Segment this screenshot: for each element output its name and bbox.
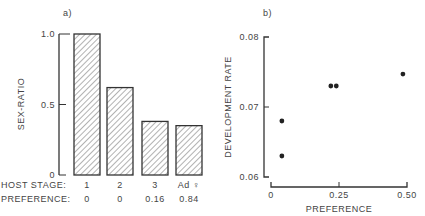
panel-b-scatter-plot: b) 0.08 0.07 0.06 DEVELOPMENT RATE 0 0.2…: [223, 8, 417, 214]
figure: a) 1.0 0.5 0 SEX-RATIO HOST STAGE: PREFE…: [0, 0, 425, 216]
bars: [74, 34, 202, 175]
y-tick-label: 1.0: [41, 29, 55, 39]
data-point: [279, 154, 284, 159]
bar: [142, 121, 168, 175]
x-axis-label: HOST STAGE:: [1, 180, 66, 190]
panel-a-bar-chart: a) 1.0 0.5 0 SEX-RATIO HOST STAGE: PREFE…: [1, 8, 202, 204]
preference-value: 0: [117, 194, 123, 204]
x-tick-label: 0: [268, 190, 274, 200]
x-tick-label: 0.25: [329, 190, 349, 200]
bar: [107, 88, 133, 175]
host-stage-label: Ad ♀: [178, 180, 200, 190]
data-points: [279, 72, 405, 159]
bar: [74, 34, 100, 175]
y-axis-label: SEX-RATIO: [16, 78, 26, 130]
x-axis-label: PREFERENCE: [306, 204, 373, 214]
y-tick-label: 0: [49, 170, 55, 180]
host-stage-label: 3: [152, 180, 158, 190]
preference-value: 0.84: [179, 194, 199, 204]
preference-value: 0.16: [145, 194, 165, 204]
data-point: [401, 72, 406, 77]
y-tick-label: 0.5: [41, 100, 55, 110]
data-point: [279, 119, 284, 124]
data-point: [328, 84, 333, 89]
data-point: [334, 84, 339, 89]
y-axis-label: DEVELOPMENT RATE: [223, 56, 233, 158]
preference-row-label: PREFERENCE:: [1, 194, 71, 204]
panel-b-label: b): [263, 8, 272, 18]
y-tick-label: 0.07: [239, 102, 259, 112]
y-tick-label: 0.08: [239, 32, 259, 42]
host-stage-label: 2: [117, 180, 123, 190]
bar: [176, 126, 202, 175]
panel-a-label: a): [63, 8, 72, 18]
y-tick-label: 0.06: [239, 172, 259, 182]
bar-labels: 102030.16Ad ♀0.84: [84, 180, 200, 204]
x-tick-label: 0.50: [397, 190, 417, 200]
preference-value: 0: [84, 194, 90, 204]
host-stage-label: 1: [84, 180, 90, 190]
